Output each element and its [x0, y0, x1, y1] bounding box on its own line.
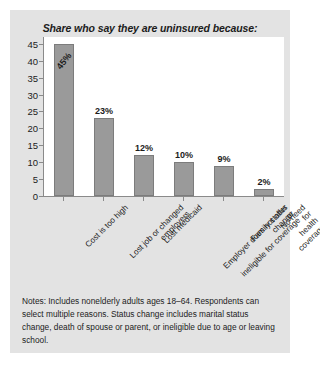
- x-axis-tick-mark: [183, 197, 184, 201]
- x-axis-tick-mark: [103, 197, 104, 201]
- bar[interactable]: [94, 118, 114, 196]
- x-axis-tick-mark: [143, 197, 144, 201]
- y-axis-tick-label: 10: [27, 157, 38, 168]
- y-axis-tick-label: 25: [27, 106, 38, 117]
- bar[interactable]: [134, 155, 154, 196]
- bars-layer: 45%23%12%10%9%2%: [44, 37, 284, 196]
- bar-slot: 12%: [124, 37, 164, 196]
- bar[interactable]: [174, 162, 194, 196]
- x-axis-tick-label: Cost is too high: [84, 203, 130, 249]
- y-axis-tick-label: 5: [33, 174, 38, 185]
- y-axis-tick-label: 20: [27, 123, 38, 134]
- y-axis-tick-label: 40: [27, 55, 38, 66]
- bar-slot: 10%: [164, 37, 204, 196]
- bar-slot: 2%: [244, 37, 284, 196]
- chart-title: Share who say they are uninsured because…: [10, 22, 290, 34]
- plot-area: 45%23%12%10%9%2%: [43, 37, 284, 197]
- chart-notes: Notes: Includes nonelderly adults ages 1…: [22, 295, 277, 346]
- x-axis-tick-mark: [223, 197, 224, 201]
- x-axis-tick-label: Lost job or changed employers: [128, 203, 192, 267]
- bar-value-label: 12%: [135, 143, 153, 153]
- chart-figure: Share who say they are uninsured because…: [10, 10, 290, 353]
- bar-value-label: 23%: [95, 106, 113, 116]
- y-axis: 051015202530354045: [10, 37, 43, 197]
- bar-value-label: 2%: [257, 177, 270, 187]
- y-axis-tick-label: 15: [27, 140, 38, 151]
- x-axis: Cost is too highLost job or changed empl…: [43, 197, 283, 297]
- bar-value-label: 10%: [175, 150, 193, 160]
- bar-slot: 45%: [44, 37, 84, 196]
- bar-value-label: 9%: [217, 154, 230, 164]
- y-axis-tick-label: 30: [27, 89, 38, 100]
- bar-slot: 9%: [204, 37, 244, 196]
- y-axis-tick-label: 35: [27, 72, 38, 83]
- bar-slot: 23%: [84, 37, 124, 196]
- y-axis-tick-label: 0: [33, 191, 38, 202]
- bar[interactable]: [214, 166, 234, 196]
- x-axis-tick-mark: [263, 197, 264, 201]
- x-axis-tick-mark: [63, 197, 64, 201]
- y-axis-tick-label: 45: [27, 38, 38, 49]
- bar[interactable]: [254, 189, 274, 196]
